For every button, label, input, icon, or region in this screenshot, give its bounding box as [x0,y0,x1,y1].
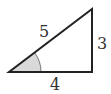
hypotenuse-label: 5 [39,22,49,41]
horizontal-leg-label: 4 [50,75,60,94]
vertical-leg-label: 3 [97,34,107,53]
triangle-diagram: 5 3 4 [0,0,111,94]
right-triangle [9,9,92,72]
